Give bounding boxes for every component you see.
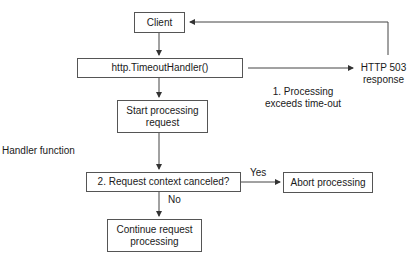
arrow-503-to-client bbox=[190, 22, 388, 55]
timeout-line1: 1. Processing bbox=[262, 86, 344, 98]
client-node: Client bbox=[134, 12, 185, 33]
continue-processing-node: Continue request processing bbox=[107, 219, 202, 252]
timeout-edge-label: 1. Processing exceeds time-out bbox=[262, 86, 344, 110]
handler-function-label: Handler function bbox=[2, 145, 75, 157]
abort-processing-node: Abort processing bbox=[283, 172, 373, 193]
timeout-handler-node: http.TimeoutHandler() bbox=[77, 58, 243, 78]
http-503-line2: response bbox=[356, 74, 411, 86]
no-label: No bbox=[168, 194, 181, 206]
timeout-line2: exceeds time-out bbox=[262, 98, 344, 110]
request-context-check-node: 2. Request context canceled? bbox=[86, 172, 241, 192]
yes-label: Yes bbox=[250, 167, 266, 179]
http-503-line1: HTTP 503 bbox=[356, 62, 411, 74]
start-processing-node: Start processing request bbox=[117, 100, 208, 133]
http-503-label: HTTP 503 response bbox=[356, 62, 411, 86]
